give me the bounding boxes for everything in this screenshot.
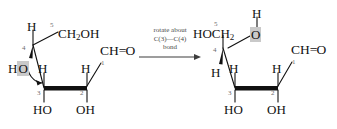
locant-c4-right: 4: [213, 47, 217, 54]
locant-c2-left: 2: [80, 90, 84, 97]
reaction-arrow-label: rotate about C(3)—C(4) bond: [139, 26, 201, 52]
atom-label-c2-oh-right: OH: [267, 103, 286, 116]
arrow-label-line-2: C(3)—C(4): [139, 35, 201, 44]
atom-label-c1-aldehyde-right: CH=O: [291, 43, 326, 57]
locant-c4-left: 4: [22, 45, 26, 52]
atom-label-c3-oh-right: HO: [224, 103, 243, 116]
atom-label-c5-right: HOCH2: [193, 27, 234, 42]
atom-label-c3-h-right: H: [229, 62, 238, 75]
locant-c2-right: 2: [271, 90, 275, 97]
arrow-label-line-3: bond: [139, 43, 201, 52]
atom-label-c2-oh-left: OH: [76, 103, 95, 116]
arrow-label-line-1: rotate about: [139, 26, 201, 35]
atom-label-c1-aldehyde-left: CH=O: [100, 44, 135, 58]
atom-label-c3-oh-left: HO: [33, 103, 52, 116]
locant-c3-right: 3: [228, 90, 232, 97]
locant-c1-right: 1: [292, 59, 296, 66]
atom-label-c2-h-right: H: [272, 62, 281, 75]
bond-c4-h-wedge-right: [219, 48, 223, 65]
highlight-o-right: O: [250, 27, 261, 42]
reaction-arrow-glyph: [139, 54, 201, 60]
atom-label-c2-h-left: H: [81, 62, 90, 75]
bond-c4-ho-wedge-left: [29, 45, 33, 59]
locant-c3-left: 3: [37, 90, 41, 97]
atom-label-c4-h-right: H: [211, 66, 220, 79]
curved-rotation-arrowhead-left: [36, 80, 42, 86]
locant-c5-left: 5: [50, 22, 54, 29]
locant-c1-left: 1: [101, 60, 105, 67]
atom-label-o-h-top-right: H: [252, 7, 261, 20]
atom-label-c4-h-left: H: [27, 20, 36, 33]
atom-label-o-top-right: O: [250, 28, 261, 41]
highlight-o-left: O: [17, 61, 28, 76]
atom-label-c5-left: CH2OH: [58, 27, 99, 42]
atom-label-c3-h-left: H: [38, 62, 47, 75]
reaction-arrow-head: [194, 54, 201, 60]
reaction-scheme-figure: 5 CH2OH H 4 HO H 3 HO H 2 OH 1 CH=O rota…: [0, 0, 337, 129]
atom-label-c4-hydroxyl-left: HO: [8, 62, 29, 75]
bond-c4-c5-left: [33, 32, 58, 45]
